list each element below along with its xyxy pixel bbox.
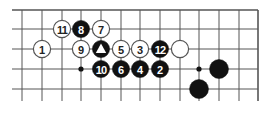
move-number-label: 12: [155, 44, 166, 56]
star-point-icon: [78, 66, 83, 71]
move-number-label: 4: [137, 64, 144, 76]
move-number-label: 7: [98, 24, 104, 36]
move-number-label: 8: [78, 24, 84, 36]
black-stone-12: 12: [151, 40, 168, 57]
white-stone: [171, 40, 188, 57]
go-board: 123456789101112: [0, 0, 265, 113]
white-stone-9: 9: [72, 40, 89, 57]
move-number-label: 3: [137, 44, 143, 56]
black-stone-6: 6: [112, 60, 129, 77]
black-stone: [210, 60, 229, 79]
star-point-icon: [196, 66, 201, 71]
black-stone-8: 8: [72, 20, 89, 37]
black-stone-2: 2: [151, 60, 168, 77]
move-number-label: 1: [39, 44, 45, 56]
black-stone-4: 4: [131, 60, 148, 77]
move-number-label: 9: [78, 44, 84, 56]
move-number-label: 11: [57, 24, 68, 36]
white-stone-1: 1: [33, 40, 50, 57]
black-stone-triangle: [92, 40, 109, 57]
white-stone-3: 3: [131, 40, 148, 57]
white-stone-11: 11: [53, 20, 70, 37]
move-number-label: 2: [157, 64, 163, 76]
move-number-label: 6: [118, 64, 124, 76]
white-stone-7: 7: [92, 20, 109, 37]
black-stone-10: 10: [92, 60, 109, 77]
black-stone: [190, 80, 209, 99]
white-stone-5: 5: [112, 40, 129, 57]
move-number-label: 10: [96, 64, 107, 76]
move-number-label: 5: [118, 44, 124, 56]
